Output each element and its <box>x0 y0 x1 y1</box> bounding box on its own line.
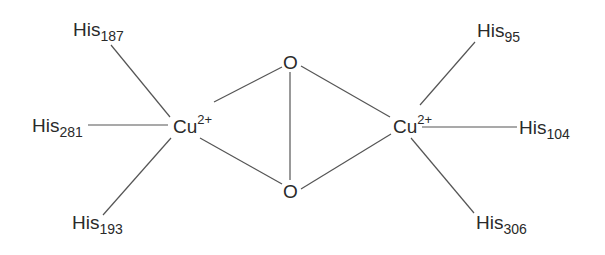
bond-cu-left-o-top <box>214 67 282 102</box>
bond-cu-left-o-bottom <box>200 138 282 184</box>
ligand-his193: His193 <box>72 213 123 232</box>
ligand-residue: 104 <box>546 126 569 142</box>
ligand-his281: His281 <box>32 116 83 135</box>
copper-right-charge: 2+ <box>417 112 432 127</box>
bond-o-bottom-cu-right <box>301 134 391 189</box>
bond-his187-cu <box>111 45 170 117</box>
ligand-residue: 281 <box>59 124 82 140</box>
ligand-name: His <box>72 212 99 233</box>
bond-his193-cu <box>103 138 171 215</box>
ligand-his187: His187 <box>73 20 124 39</box>
copper-right-symbol: Cu <box>393 116 417 137</box>
bond-his95-cu <box>420 42 475 105</box>
bond-o-top-cu-right <box>301 66 390 117</box>
ligand-name: His <box>477 20 504 41</box>
ligand-his95: His95 <box>477 21 520 40</box>
ligand-his306: His306 <box>476 213 527 232</box>
ligand-name: His <box>32 115 59 136</box>
copper-left: Cu2+ <box>173 117 212 136</box>
oxygen-top: O <box>283 53 298 72</box>
ligand-name: His <box>519 117 546 138</box>
ligand-name: His <box>73 19 100 40</box>
ligand-name: His <box>476 212 503 233</box>
ligand-his104: His104 <box>519 118 570 137</box>
copper-left-charge: 2+ <box>197 112 212 127</box>
ligand-residue: 187 <box>100 28 123 44</box>
copper-right: Cu2+ <box>393 117 432 136</box>
ligand-residue: 95 <box>504 29 520 45</box>
bond-his306-cu <box>411 138 474 213</box>
ligand-residue: 193 <box>99 221 122 237</box>
copper-left-symbol: Cu <box>173 116 197 137</box>
ligand-residue: 306 <box>503 221 526 237</box>
oxygen-bottom: O <box>283 182 298 201</box>
